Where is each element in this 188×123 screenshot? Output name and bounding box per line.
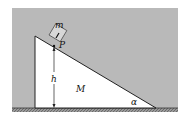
angle-label: α bbox=[131, 97, 137, 107]
ground-surface bbox=[12, 108, 178, 112]
point-label: P bbox=[58, 40, 66, 50]
wedge-mass-label: M bbox=[75, 84, 86, 94]
incline-diagram: m P h M α bbox=[0, 0, 188, 123]
block-mass-label: m bbox=[55, 20, 64, 30]
height-label: h bbox=[51, 74, 57, 84]
point-p-dot bbox=[53, 45, 55, 47]
